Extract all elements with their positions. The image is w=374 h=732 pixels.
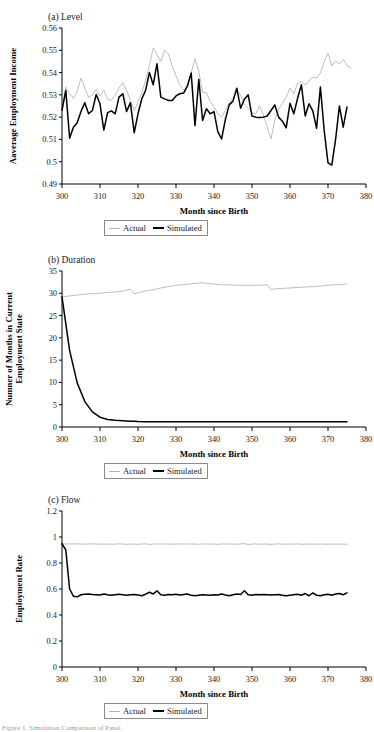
legend-flow: Actual Simulated: [104, 703, 208, 719]
y-axis-title: Numner of Months in Current: [4, 292, 14, 406]
panel-flow: (c) Flow 00.20.40.60.811.230031032033034…: [0, 486, 374, 726]
x-tick-label: 360: [284, 192, 297, 201]
legend-label-actual: Actual: [123, 224, 146, 233]
legend-line-actual-icon: [109, 711, 120, 712]
x-tick-label: 320: [132, 192, 145, 201]
legend-item-simulated: Simulated: [153, 467, 202, 476]
legend-line-simulated-icon: [153, 227, 164, 229]
series-line-simulated: [62, 64, 347, 165]
series-line-simulated: [62, 544, 347, 597]
legend-level: Actual Simulated: [104, 220, 208, 236]
series-line-actual: [62, 283, 347, 297]
x-tick-label: 330: [170, 675, 183, 684]
x-tick-label: 350: [246, 192, 259, 201]
legend-label-simulated: Simulated: [167, 707, 202, 716]
x-tick-label: 360: [284, 435, 297, 444]
legend-item-actual: Actual: [109, 224, 146, 233]
x-tick-label: 320: [132, 675, 145, 684]
x-axis-title: Month since Birth: [180, 449, 249, 459]
y-tick-label: 0.56: [42, 24, 57, 33]
x-tick-label: 370: [322, 675, 335, 684]
y-axis-title: Aaverage Employment Income: [8, 48, 18, 164]
y-tick-label: 1.2: [47, 507, 57, 516]
y-tick-label: 0: [53, 663, 57, 672]
x-tick-label: 300: [56, 435, 69, 444]
x-tick-label: 340: [208, 192, 221, 201]
x-tick-label: 380: [360, 192, 373, 201]
x-tick-label: 370: [322, 435, 335, 444]
x-tick-label: 380: [360, 435, 373, 444]
chart-level: 0.490.50.510.520.530.540.550.56300310320…: [0, 22, 374, 237]
y-tick-label: 0.52: [42, 113, 57, 122]
x-tick-label: 310: [94, 435, 107, 444]
chart-duration: 0510152025303530031032033034035036037038…: [0, 265, 374, 480]
y-tick-label: 0.49: [42, 180, 57, 189]
x-tick-label: 350: [246, 435, 259, 444]
legend-line-actual-icon: [109, 471, 120, 472]
legend-duration: Actual Simulated: [104, 463, 208, 479]
x-tick-label: 380: [360, 675, 373, 684]
legend-item-actual: Actual: [109, 707, 146, 716]
figure-container: (a) Level 0.490.50.510.520.530.540.550.5…: [0, 0, 374, 732]
legend-item-actual: Actual: [109, 467, 146, 476]
x-tick-label: 340: [208, 675, 221, 684]
figure-caption: Figure 1. Simulation Comparison of Panel: [2, 724, 121, 732]
y-tick-label: 0: [53, 423, 57, 432]
y-tick-label: 0.6: [47, 585, 57, 594]
legend-line-simulated-icon: [153, 470, 164, 472]
legend-label-actual: Actual: [123, 707, 146, 716]
legend-line-simulated-icon: [153, 710, 164, 712]
legend-label-simulated: Simulated: [167, 224, 202, 233]
x-tick-label: 300: [56, 675, 69, 684]
y-tick-label: 0.51: [42, 135, 57, 144]
x-tick-label: 330: [170, 435, 183, 444]
y-tick-label: 0.2: [47, 637, 57, 646]
y-axis-title: Employment State: [14, 314, 24, 384]
y-tick-label: 0.4: [47, 611, 58, 620]
series-line-simulated: [62, 297, 347, 422]
y-axis-title: Employment Rate: [14, 555, 24, 623]
panel-title-duration: (b) Duration: [48, 255, 95, 265]
chart-flow: 00.20.40.60.811.230031032033034035036037…: [0, 505, 374, 720]
y-tick-label: 5: [53, 401, 57, 410]
y-tick-label: 35: [49, 267, 57, 276]
legend-label-simulated: Simulated: [167, 467, 202, 476]
x-axis-title: Month since Birth: [180, 206, 249, 216]
panel-title-flow: (c) Flow: [48, 495, 80, 505]
y-tick-label: 0.5: [47, 158, 57, 167]
x-tick-label: 340: [208, 435, 221, 444]
y-tick-label: 0.54: [42, 69, 57, 78]
x-tick-label: 350: [246, 675, 259, 684]
panel-level: (a) Level 0.490.50.510.520.530.540.550.5…: [0, 0, 374, 240]
y-tick-label: 25: [49, 312, 57, 321]
panel-title-level: (a) Level: [48, 12, 83, 22]
x-tick-label: 300: [56, 192, 69, 201]
x-tick-label: 320: [132, 435, 145, 444]
legend-line-actual-icon: [109, 228, 120, 229]
y-tick-label: 10: [49, 378, 57, 387]
legend-label-actual: Actual: [123, 467, 146, 476]
x-tick-label: 310: [94, 675, 107, 684]
y-tick-label: 1: [53, 533, 57, 542]
x-tick-label: 360: [284, 675, 297, 684]
legend-item-simulated: Simulated: [153, 707, 202, 716]
series-line-actual: [62, 544, 347, 545]
x-tick-label: 310: [94, 192, 107, 201]
y-tick-label: 30: [49, 289, 57, 298]
x-tick-label: 330: [170, 192, 183, 201]
legend-item-simulated: Simulated: [153, 224, 202, 233]
y-tick-label: 20: [49, 334, 57, 343]
y-tick-label: 0.8: [47, 559, 57, 568]
y-tick-label: 0.53: [42, 91, 57, 100]
y-tick-label: 15: [49, 356, 57, 365]
y-tick-label: 0.55: [42, 46, 57, 55]
x-tick-label: 370: [322, 192, 335, 201]
x-axis-title: Month since Birth: [180, 689, 249, 699]
panel-duration: (b) Duration 051015202530353003103203303…: [0, 243, 374, 483]
